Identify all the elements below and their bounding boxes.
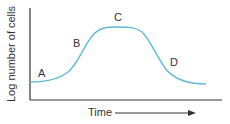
phase-label-d: D [170,56,178,68]
phase-label-c: C [114,11,122,23]
phase-label-a: A [38,67,45,79]
growth-curve [30,27,206,84]
y-axis-label: Log number of cells [5,4,17,104]
x-axis-label: Time [88,106,112,118]
phase-label-b: B [73,37,80,49]
time-arrow-icon [188,110,196,116]
